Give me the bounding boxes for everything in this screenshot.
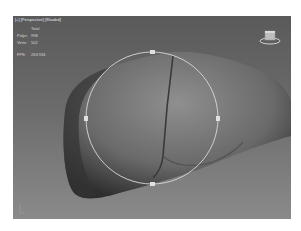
stats-row: Verts: 502	[17, 39, 45, 46]
stats-key: Polys:	[17, 32, 31, 39]
stats-value: 502	[31, 39, 38, 46]
fps-row: FPS: 263.934	[17, 51, 45, 58]
fps-value: 263.934	[31, 51, 45, 58]
gizmo-handle-bottom[interactable]	[150, 182, 155, 186]
fps-key: FPS:	[17, 51, 31, 58]
stats-key: Verts:	[17, 39, 31, 46]
statistics-overlay: Total Polys: 998 Verts: 502 FPS: 263.934	[17, 25, 45, 58]
stats-row: Polys: 998	[17, 32, 45, 39]
stats-header: Total	[17, 25, 45, 32]
perspective-viewport[interactable]: [+] [Perspective] [Shaded] Total Polys: …	[13, 16, 291, 219]
gizmo-handle-top[interactable]	[150, 50, 155, 54]
gizmo-handle-left[interactable]	[84, 116, 88, 121]
stats-value: 998	[31, 32, 38, 39]
axis-tripod-icon	[17, 203, 25, 215]
viewcube-icon[interactable]	[259, 28, 281, 46]
gizmo-handle-right[interactable]	[216, 116, 220, 121]
viewport-label[interactable]: [+] [Perspective] [Shaded]	[15, 17, 61, 22]
scene-canvas[interactable]	[13, 16, 291, 219]
